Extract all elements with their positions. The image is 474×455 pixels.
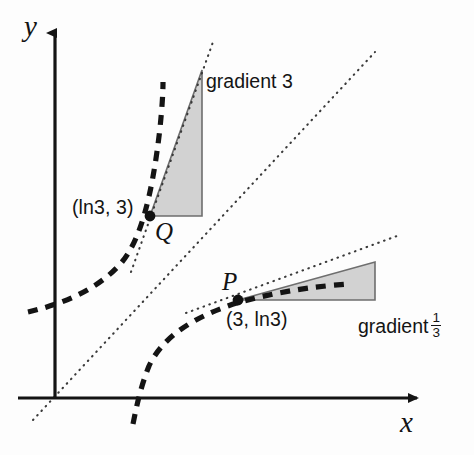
gradient-label-lower: gradient13 [358, 311, 441, 340]
coordinate-label-Q: (ln3, 3) [72, 198, 134, 218]
x-axis-label: x [400, 408, 413, 437]
fraction-denominator: 3 [431, 326, 441, 340]
coordinate-label-P: (3, ln3) [226, 310, 288, 330]
diagram-canvas [0, 0, 474, 455]
logarithm-curve [133, 284, 348, 424]
gradient-label-upper: gradient 3 [206, 72, 293, 92]
gradient-label-lower-text: gradient [358, 315, 428, 337]
gradient-fraction-one-third: 13 [431, 311, 441, 340]
lower-gradient-triangle [238, 262, 375, 300]
fraction-numerator: 1 [431, 311, 441, 326]
point-label-Q: Q [155, 219, 173, 244]
math-diagram-figure: y x Q P (ln3, 3) (3, ln3) gradient 3 gra… [0, 0, 474, 455]
lower-triangle-shape [238, 262, 375, 300]
point-Q-marker [145, 211, 156, 222]
y-axis-label: y [24, 12, 37, 41]
point-P-marker [233, 295, 244, 306]
point-label-P: P [222, 269, 237, 294]
line-y-equals-x [33, 52, 375, 420]
